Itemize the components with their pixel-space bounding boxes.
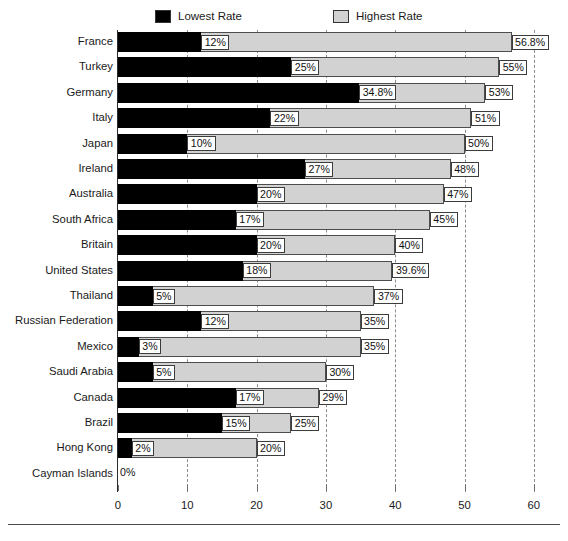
legend-item-highest-rate: Highest Rate — [333, 8, 422, 24]
value-label-highest-rate: 29% — [319, 390, 347, 405]
category-label: Russian Federation — [0, 313, 113, 327]
legend-label-highest-rate: Highest Rate — [356, 10, 422, 23]
category-label: Hong Kong — [0, 440, 113, 454]
bar-row: Hong Kong2%20% — [0, 436, 568, 461]
value-label-lowest-rate: 20% — [257, 238, 285, 253]
x-tick-label: 40 — [375, 498, 415, 512]
x-tick-label: 60 — [514, 498, 554, 512]
bar-row: Mexico3%35% — [0, 335, 568, 360]
bar-row: Britain20%40% — [0, 233, 568, 258]
category-label: Thailand — [0, 288, 113, 302]
bar-lowest-rate — [118, 438, 132, 458]
x-tick-mark — [257, 485, 258, 491]
x-tick-mark — [465, 485, 466, 491]
x-tick-mark — [326, 485, 327, 491]
bar-row: Russian Federation12%35% — [0, 309, 568, 334]
bar-lowest-rate — [118, 261, 243, 281]
value-label-highest-rate: 25% — [291, 416, 319, 431]
value-label-highest-rate: 40% — [395, 238, 423, 253]
value-label-highest-rate: 56.8% — [512, 35, 549, 50]
bar-row: Ireland27%48% — [0, 157, 568, 182]
bar-row: Brazil15%25% — [0, 411, 568, 436]
value-label-highest-rate: 48% — [451, 162, 479, 177]
value-label-lowest-rate: 0% — [118, 466, 138, 481]
x-tick-mark — [118, 485, 119, 491]
value-label-lowest-rate: 12% — [201, 314, 229, 329]
category-label: Germany — [0, 85, 113, 99]
x-tick-label: 20 — [237, 498, 277, 512]
category-label: South Africa — [0, 212, 113, 226]
chart-legend: Lowest Rate Highest Rate — [0, 8, 568, 28]
value-label-lowest-rate: 34.8% — [359, 85, 396, 100]
category-label: Cayman Islands — [0, 466, 113, 480]
x-tick-label: 50 — [445, 498, 485, 512]
value-label-lowest-rate: 10% — [187, 136, 215, 151]
bar-row: Italy22%51% — [0, 106, 568, 131]
value-label-highest-rate: 53% — [485, 85, 513, 100]
bar-lowest-rate — [118, 286, 153, 306]
bar-lowest-rate — [118, 83, 359, 103]
category-label: France — [0, 34, 113, 48]
category-label: Turkey — [0, 59, 113, 73]
bar-lowest-rate — [118, 134, 187, 154]
bar-lowest-rate — [118, 235, 257, 255]
value-label-lowest-rate: 20% — [257, 187, 285, 202]
value-label-lowest-rate: 12% — [201, 35, 229, 50]
value-label-lowest-rate: 2% — [132, 441, 154, 456]
bar-lowest-rate — [118, 57, 291, 77]
category-label: Japan — [0, 136, 113, 150]
value-label-highest-rate: 35% — [361, 314, 389, 329]
legend-item-lowest-rate: Lowest Rate — [155, 8, 242, 24]
legend-swatch-lowest-rate — [155, 10, 171, 23]
value-label-lowest-rate: 17% — [236, 212, 264, 227]
x-tick-mark — [395, 485, 396, 491]
bar-lowest-rate — [118, 32, 201, 52]
category-label: Saudi Arabia — [0, 364, 113, 378]
bar-row: United States18%39.6% — [0, 259, 568, 284]
value-label-highest-rate: 30% — [326, 365, 354, 380]
value-label-lowest-rate: 5% — [153, 365, 175, 380]
category-label: United States — [0, 263, 113, 277]
value-label-highest-rate: 55% — [499, 60, 527, 75]
x-tick-mark — [187, 485, 188, 491]
bar-row: Japan10%50% — [0, 132, 568, 157]
category-label: Mexico — [0, 339, 113, 353]
value-label-highest-rate: 45% — [430, 212, 458, 227]
bar-lowest-rate — [118, 311, 201, 331]
value-label-highest-rate: 51% — [471, 111, 499, 126]
bar-row: Australia20%47% — [0, 182, 568, 207]
value-label-lowest-rate: 17% — [236, 390, 264, 405]
bar-lowest-rate — [118, 413, 222, 433]
bar-row: Thailand5%37% — [0, 284, 568, 309]
x-tick-label: 10 — [167, 498, 207, 512]
value-label-highest-rate: 50% — [465, 136, 493, 151]
chart-plot-area: France12%56.8%Turkey25%55%Germany34.8%53… — [0, 30, 568, 485]
category-label: Italy — [0, 110, 113, 124]
bar-lowest-rate — [118, 337, 139, 357]
value-label-lowest-rate: 27% — [305, 162, 333, 177]
bar-row: Cayman Islands0% — [0, 462, 568, 487]
bar-row: Germany34.8%53% — [0, 81, 568, 106]
category-label: Britain — [0, 237, 113, 251]
bar-lowest-rate — [118, 362, 153, 382]
category-label: Australia — [0, 186, 113, 200]
value-label-highest-rate: 37% — [374, 289, 402, 304]
x-tick-label: 0 — [98, 498, 138, 512]
value-label-lowest-rate: 15% — [222, 416, 250, 431]
bar-row: Canada17%29% — [0, 386, 568, 411]
value-label-lowest-rate: 18% — [243, 263, 271, 278]
bar-lowest-rate — [118, 388, 236, 408]
legend-swatch-highest-rate — [333, 10, 349, 23]
category-label: Canada — [0, 390, 113, 404]
bar-row: South Africa17%45% — [0, 208, 568, 233]
bar-row: France12%56.8% — [0, 30, 568, 55]
category-label: Ireland — [0, 161, 113, 175]
bar-row: Saudi Arabia5%30% — [0, 360, 568, 385]
x-tick-mark — [534, 485, 535, 491]
value-label-lowest-rate: 25% — [291, 60, 319, 75]
value-label-lowest-rate: 22% — [270, 111, 298, 126]
bar-lowest-rate — [118, 184, 257, 204]
category-label: Brazil — [0, 415, 113, 429]
bar-lowest-rate — [118, 108, 270, 128]
value-label-highest-rate: 20% — [257, 441, 285, 456]
